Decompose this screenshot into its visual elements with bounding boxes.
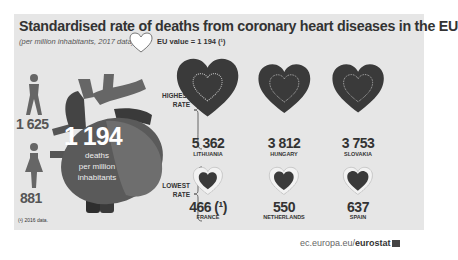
rate-value: 550 [244,199,324,215]
lowest-rate-label: LOWEST RATE [162,181,190,199]
infographic-panel: Standardised rate of deaths from coronar… [14,14,424,230]
country-label: SPAIN [318,214,398,220]
country-label: NETHERLANDS [244,214,324,220]
rate-value: 3 753 [318,135,398,151]
center-label-line2: per million [62,161,132,172]
rate-value: 5 362 [168,135,248,151]
chart-subtitle: (per million inhabitants, 2017 data) [19,37,134,46]
high-heart-hungary [256,62,313,119]
center-value: 1 194 [64,122,122,151]
source-brand: eurostat [355,238,391,248]
chart-title: Standardised rate of deaths from coronar… [19,17,458,35]
country-label: SLOVAKIA [318,151,398,157]
country-label: LITHUANIA [168,151,248,157]
lowest-label-line2: RATE [162,190,190,199]
center-label-line1: deaths [62,150,132,161]
country-label: FRANCE [168,214,248,220]
low-heart-spain [342,166,374,198]
eu-heart-outline-icon [129,32,153,54]
rate-value: 637 [318,199,398,215]
source-prefix: ec.europa.eu/ [300,238,355,248]
high-heart-slovakia [330,62,386,118]
outer-heart [332,64,383,112]
low-heart-netherlands [268,166,300,198]
eurostat-logo-icon [392,240,400,247]
footnote: (¹) 2016 data. [18,217,48,223]
outer-heart [177,59,238,117]
source-credit[interactable]: ec.europa.eu/eurostat [300,238,400,248]
rate-value: 3 812 [244,135,324,151]
outer-heart [258,64,310,113]
rate-value: 466 (¹) [168,199,248,215]
center-label: deaths per million inhabitants [62,150,132,183]
low-heart-france [192,166,224,198]
lowest-label-line1: LOWEST [162,181,190,190]
country-label: HUNGARY [244,151,324,157]
center-label-line3: inhabitants [62,172,132,183]
high-heart-lithuania [174,56,241,123]
eu-value-label: EU value = 1 194 (¹) [157,37,226,46]
